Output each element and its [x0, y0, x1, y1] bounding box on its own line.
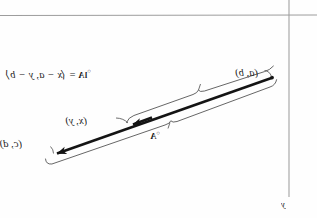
label-axis-y: y: [281, 200, 285, 209]
equation-relation: =: [69, 69, 75, 80]
main-vector: [57, 78, 272, 154]
vector-diagram-figure: (a, b) (c, d) (x, y) ○lA = ⟨x − a, y − b…: [0, 0, 317, 218]
vector-a-superscript: ○: [156, 130, 160, 136]
endpoint-dot-ab: [270, 76, 274, 80]
main-vector-shaft: [57, 78, 272, 154]
figure-canvas: [0, 0, 317, 218]
label-point-ab: (a, b): [235, 68, 258, 79]
label-vector-a: ○A: [150, 130, 160, 141]
equation-lhs-superscript: ○: [87, 68, 91, 74]
label-point-cd: (c, d): [0, 139, 22, 150]
equation-lhs: lA: [78, 70, 87, 80]
page-rules: [0, 0, 317, 197]
label-point-xy: (x, y): [65, 116, 87, 127]
horizontal-rule: [0, 15, 317, 16]
label-vector-equation: ○lA = ⟨x − a, y − b⟩: [6, 68, 91, 80]
leader-cd: [51, 147, 54, 154]
equation-rhs: ⟨x − a, y − b⟩: [6, 69, 67, 80]
vector-a-name: A: [150, 131, 156, 141]
leader-equation: [199, 84, 201, 90]
